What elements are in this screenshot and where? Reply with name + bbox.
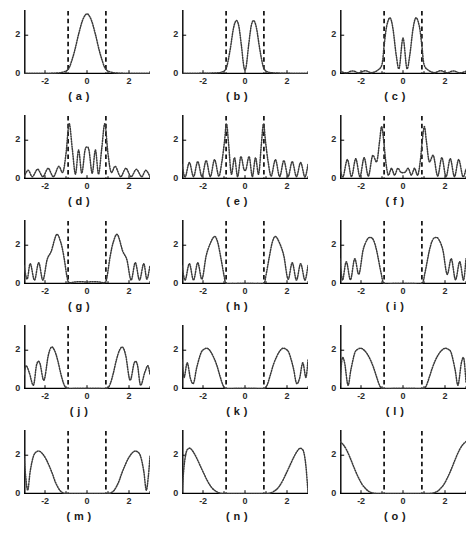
panel-caption-n: ( n ) — [158, 510, 316, 522]
chart-panel-o: 02-202( o ) — [316, 426, 474, 531]
x-tick-label: -2 — [194, 286, 212, 296]
plot-area-m — [24, 430, 150, 494]
data-curve — [182, 21, 308, 74]
plot-svg-f — [340, 115, 466, 179]
x-tick-label: 0 — [78, 391, 96, 401]
x-tick-label: -2 — [36, 181, 54, 191]
x-tick-label: 0 — [78, 496, 96, 506]
y-tick-label: 2 — [6, 29, 20, 39]
plot-area-o — [340, 430, 466, 494]
x-tick-label: -2 — [194, 76, 212, 86]
chart-panel-h: 02-202( h ) — [158, 216, 316, 321]
data-curve — [24, 124, 150, 177]
plot-svg-i — [340, 220, 466, 284]
panel-caption-m: ( m ) — [0, 510, 158, 522]
x-tick-label: -2 — [194, 496, 212, 506]
plot-area-b — [182, 10, 308, 74]
y-tick-label: 2 — [322, 134, 336, 144]
x-tick-label: 0 — [78, 181, 96, 191]
x-tick-label: 0 — [236, 76, 254, 86]
x-tick-label: -2 — [352, 181, 370, 191]
x-tick-label: 0 — [236, 181, 254, 191]
chart-panel-a: 02-202( a ) — [0, 6, 158, 111]
chart-panel-n: 02-202( n ) — [158, 426, 316, 531]
y-tick-label: 2 — [322, 449, 336, 459]
x-tick-label: 0 — [394, 391, 412, 401]
x-tick-label: 2 — [436, 496, 454, 506]
x-tick-label: 2 — [278, 496, 296, 506]
panel-caption-g: ( g ) — [0, 300, 158, 312]
y-tick-label: 0 — [164, 383, 178, 393]
panel-caption-c: ( c ) — [316, 90, 474, 102]
x-tick-label: 0 — [236, 286, 254, 296]
data-curve — [182, 348, 308, 389]
plot-area-c — [340, 10, 466, 74]
x-tick-label: 2 — [278, 286, 296, 296]
panel-caption-k: ( k ) — [158, 405, 316, 417]
y-tick-label: 2 — [322, 344, 336, 354]
plot-svg-l — [340, 325, 466, 389]
plot-area-g — [24, 220, 150, 284]
plot-svg-b — [182, 10, 308, 74]
x-tick-label: 0 — [78, 286, 96, 296]
panel-caption-o: ( o ) — [316, 510, 474, 522]
plot-area-h — [182, 220, 308, 284]
y-tick-label: 0 — [6, 173, 20, 183]
chart-panel-l: 02-202( l ) — [316, 321, 474, 426]
x-tick-label: 2 — [436, 286, 454, 296]
y-tick-label: 2 — [6, 239, 20, 249]
chart-panel-f: 02-202( f ) — [316, 111, 474, 216]
data-curve — [24, 451, 150, 494]
y-tick-label: 0 — [322, 278, 336, 288]
plot-area-l — [340, 325, 466, 389]
y-tick-label: 2 — [164, 134, 178, 144]
y-tick-label: 0 — [6, 383, 20, 393]
x-tick-label: 2 — [120, 496, 138, 506]
x-tick-label: 2 — [120, 76, 138, 86]
x-tick-label: 0 — [78, 76, 96, 86]
data-curve — [182, 236, 308, 283]
x-tick-label: 2 — [436, 391, 454, 401]
plot-svg-g — [24, 220, 150, 284]
x-tick-label: 0 — [394, 181, 412, 191]
y-tick-label: 0 — [164, 173, 178, 183]
plot-area-j — [24, 325, 150, 389]
plot-svg-j — [24, 325, 150, 389]
data-curve — [340, 237, 466, 284]
plot-area-k — [182, 325, 308, 389]
chart-panel-c: 02-202( c ) — [316, 6, 474, 111]
data-curve — [182, 448, 308, 494]
x-tick-label: -2 — [352, 76, 370, 86]
y-tick-label: 2 — [6, 344, 20, 354]
x-tick-label: -2 — [352, 391, 370, 401]
figure-panel-grid: 02-202( a )02-202( b )02-202( c )02-202(… — [0, 0, 474, 547]
x-tick-label: -2 — [352, 286, 370, 296]
y-tick-label: 2 — [164, 344, 178, 354]
plot-area-e — [182, 115, 308, 179]
panel-caption-j: ( j ) — [0, 405, 158, 417]
x-tick-label: 2 — [278, 181, 296, 191]
chart-panel-b: 02-202( b ) — [158, 6, 316, 111]
plot-area-i — [340, 220, 466, 284]
data-curve — [182, 124, 308, 177]
panel-caption-i: ( i ) — [316, 300, 474, 312]
panel-caption-b: ( b ) — [158, 90, 316, 102]
chart-panel-g: 02-202( g ) — [0, 216, 158, 321]
x-tick-label: 0 — [236, 391, 254, 401]
data-curve — [340, 127, 466, 177]
x-tick-label: 0 — [394, 76, 412, 86]
plot-area-d — [24, 115, 150, 179]
y-tick-label: 0 — [322, 173, 336, 183]
panel-caption-f: ( f ) — [316, 195, 474, 207]
data-curve — [340, 18, 466, 73]
x-tick-label: 2 — [120, 181, 138, 191]
plot-svg-o — [340, 430, 466, 494]
data-curve — [340, 442, 466, 494]
x-tick-label: 2 — [278, 76, 296, 86]
x-tick-label: 0 — [394, 286, 412, 296]
y-tick-label: 0 — [6, 278, 20, 288]
x-tick-label: 2 — [120, 286, 138, 296]
panel-grid: 02-202( a )02-202( b )02-202( c )02-202(… — [0, 6, 474, 531]
data-curve — [24, 14, 150, 74]
chart-panel-k: 02-202( k ) — [158, 321, 316, 426]
